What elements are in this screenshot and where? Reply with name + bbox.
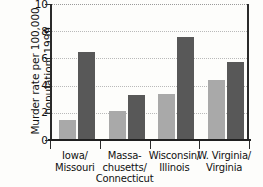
bar-group-3-high [227, 62, 244, 140]
category-label-3: W. Virginia/ Virginia [193, 150, 255, 173]
plot-area [50, 4, 249, 140]
bar-group-0-low [59, 120, 76, 140]
bar-group-2-high [177, 37, 194, 140]
bar-group-0-high [78, 52, 95, 140]
x-separator-4 [249, 141, 250, 149]
x-separator-2 [150, 141, 151, 149]
bar-group-1-low [109, 111, 126, 140]
y-axis-label-container: Murder rate per 100,000 population, 1999 [0, 0, 34, 145]
murder-rate-bar-chart: Murder rates in adjacent states Murder r… [0, 0, 263, 187]
x-separator-1 [100, 141, 101, 149]
bar-group-2-low [158, 94, 175, 140]
bars-layer [52, 4, 247, 140]
x-separator-3 [199, 141, 200, 149]
bar-group-1-high [128, 95, 145, 140]
bar-group-3-low [208, 80, 225, 140]
x-separator-0 [50, 141, 51, 149]
